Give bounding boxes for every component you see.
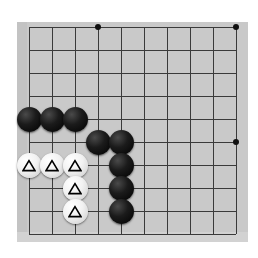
black-stone[interactable] bbox=[109, 176, 134, 201]
white-stone[interactable] bbox=[63, 199, 88, 224]
grid-line-vertical-8 bbox=[190, 27, 191, 234]
star-point-j-top bbox=[233, 24, 239, 30]
triangle-marker-icon bbox=[68, 182, 82, 195]
grid-line-vertical-10 bbox=[236, 27, 237, 234]
board-left-shade bbox=[17, 22, 27, 242]
black-stone[interactable] bbox=[17, 107, 42, 132]
grid-line-horizontal-4 bbox=[29, 96, 236, 97]
triangle-marker-icon bbox=[22, 159, 36, 172]
grid-line-horizontal-1 bbox=[29, 27, 236, 28]
white-stone[interactable] bbox=[40, 153, 65, 178]
go-diagram-screenshot bbox=[0, 0, 258, 258]
star-point-j-mid bbox=[233, 139, 239, 145]
black-stone[interactable] bbox=[40, 107, 65, 132]
grid-line-vertical-6 bbox=[144, 27, 145, 234]
grid-line-vertical-7 bbox=[167, 27, 168, 234]
black-stone[interactable] bbox=[63, 107, 88, 132]
grid-line-horizontal-3 bbox=[29, 73, 236, 74]
black-stone[interactable] bbox=[109, 153, 134, 178]
star-point-d-top bbox=[95, 24, 101, 30]
triangle-marker-icon bbox=[68, 205, 82, 218]
grid-line-horizontal-10 bbox=[29, 234, 236, 235]
triangle-marker-icon bbox=[68, 159, 82, 172]
black-stone[interactable] bbox=[109, 130, 134, 155]
grid-line-vertical-9 bbox=[213, 27, 214, 234]
black-stone[interactable] bbox=[109, 199, 134, 224]
black-stone[interactable] bbox=[86, 130, 111, 155]
white-stone[interactable] bbox=[63, 153, 88, 178]
white-stone[interactable] bbox=[63, 176, 88, 201]
white-stone[interactable] bbox=[17, 153, 42, 178]
triangle-marker-icon bbox=[45, 159, 59, 172]
grid-line-horizontal-2 bbox=[29, 50, 236, 51]
